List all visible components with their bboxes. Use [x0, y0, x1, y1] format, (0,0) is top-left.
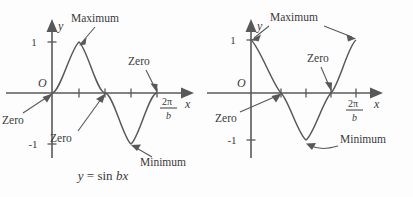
- x-tick-label-period-numerator: 2π: [348, 98, 358, 109]
- x-tick-label-period-denominator: b: [166, 110, 171, 121]
- y-axis-arrowhead: [47, 19, 58, 32]
- callout-zero-end-label: Zero: [128, 55, 150, 67]
- callout-zero-second-label: Zero: [307, 52, 329, 64]
- callout-zero-mid-arrowhead: [96, 94, 106, 104]
- cosine-graph-panel: y x O 1 -1 2π b Maximum: [207, 0, 413, 197]
- callout-minimum-arrowhead: [306, 143, 316, 150]
- callout-maximum-label: Maximum: [71, 12, 119, 24]
- sine-caption-argument: bx: [116, 168, 128, 183]
- callout-zero-second: Zero: [307, 52, 332, 92]
- x-tick-label-period-denominator: b: [352, 112, 357, 123]
- cosine-curve: [251, 40, 356, 140]
- sine-caption-y: y: [78, 168, 84, 183]
- callout-maximum: Maximum: [252, 11, 357, 42]
- callout-zero-end-arrowhead: [151, 84, 158, 93]
- x-axis-label: x: [373, 97, 380, 111]
- cosine-graph-svg: y x O 1 -1 2π b Maximum: [207, 0, 413, 197]
- callout-minimum: Minimum: [306, 133, 386, 150]
- callout-minimum-label: Minimum: [340, 133, 386, 145]
- sine-caption-function: sin: [97, 168, 112, 183]
- callout-maximum-label: Maximum: [270, 11, 318, 23]
- origin-label: O: [38, 76, 47, 90]
- figure-root: y x O 1 -1 2π b Maximum Zero: [0, 0, 413, 197]
- x-tick-label-period: 2π b: [346, 98, 363, 123]
- callout-maximum: Maximum: [71, 12, 119, 46]
- callout-minimum-label: Minimum: [140, 156, 186, 168]
- y-axis-label: y: [256, 19, 263, 33]
- callout-zero-first: Zero: [215, 94, 282, 125]
- y-tick-label-negative-one: -1: [28, 138, 37, 150]
- callout-zero-first-arrowhead: [272, 94, 282, 103]
- y-axis-arrowhead: [246, 19, 257, 32]
- callout-zero-origin-label: Zero: [2, 114, 24, 126]
- callout-zero-mid-label: Zero: [50, 132, 72, 144]
- origin-label: O: [237, 76, 246, 90]
- callout-minimum: Minimum: [131, 145, 186, 169]
- callout-zero-end: Zero: [128, 55, 158, 93]
- y-tick-label-negative-one: -1: [227, 134, 236, 146]
- callout-zero-second-arrowhead: [325, 82, 332, 92]
- callout-zero-first-label: Zero: [215, 112, 237, 124]
- y-tick-label-one: 1: [31, 36, 37, 48]
- sine-caption-equals: =: [87, 168, 94, 183]
- x-tick-label-period-numerator: 2π: [162, 96, 172, 107]
- callout-zero-mid: Zero: [50, 94, 106, 145]
- sine-graph-panel: y x O 1 -1 2π b Maximum Zero: [0, 0, 206, 197]
- callout-maximum-leader: [81, 27, 96, 44]
- x-tick-label-period: 2π b: [160, 96, 177, 121]
- x-axis-label: x: [184, 97, 191, 111]
- y-axis-label: y: [57, 19, 64, 33]
- y-tick-label-one: 1: [230, 34, 236, 46]
- sine-caption: y = sin bx: [0, 168, 206, 184]
- callout-zero-origin-arrowhead: [43, 94, 53, 103]
- callout-zero-origin: Zero: [2, 94, 53, 127]
